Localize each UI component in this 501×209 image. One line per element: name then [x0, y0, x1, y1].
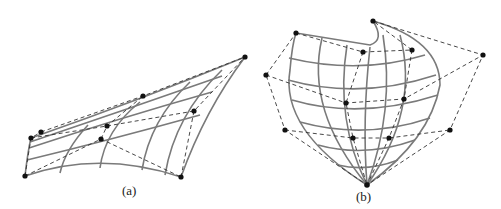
- panel-a-surface: [25, 57, 245, 177]
- caption-a: (a): [122, 183, 136, 199]
- panel-a-control-points: [22, 54, 247, 179]
- caption-b: (b): [356, 189, 371, 205]
- figure-canvas: [0, 0, 501, 209]
- panel-a-control-net: [25, 57, 245, 177]
- panel-b-surface: [288, 21, 440, 185]
